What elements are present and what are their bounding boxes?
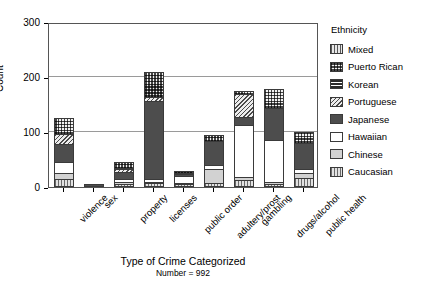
bar-segment-hawaiian (234, 125, 254, 176)
bar-public-order[interactable] (174, 171, 194, 188)
legend-swatch-icon (330, 44, 343, 54)
plot-area (48, 23, 318, 188)
bar-segment-puerto-rican (294, 132, 314, 143)
bar-segment-japanese (54, 144, 74, 162)
bar-segment-japanese (234, 117, 254, 125)
bar-public-health[interactable] (294, 132, 314, 187)
legend-swatch-icon (330, 97, 343, 107)
chart-canvas: Count 0100200300 violencesexpropertylice… (0, 0, 433, 292)
bar-segment-chinese (264, 182, 284, 184)
y-axis-title: Count (0, 65, 5, 92)
bar-segment-japanese (144, 101, 164, 179)
legend-item-label: Chinese (348, 149, 383, 160)
legend-item-korean[interactable]: Korean (330, 77, 433, 91)
bar-segment-portuguese (54, 134, 74, 144)
y-axis-tick-mark (44, 188, 48, 189)
x-axis-tick-mark (213, 188, 214, 192)
bar-segment-chinese (204, 169, 224, 182)
bar-segment-puerto-rican (204, 135, 224, 142)
bar-segment-portuguese (114, 169, 134, 171)
y-axis-tick-label: 200 (14, 73, 40, 83)
legend-swatch-icon (330, 132, 343, 142)
bar-segment-chinese (114, 182, 134, 184)
bar-segment-chinese (234, 177, 254, 180)
bar-segment-chinese (174, 183, 194, 185)
bar-segment-japanese (264, 108, 284, 140)
x-axis-tick-label: violence (77, 192, 109, 224)
bar-segment-chinese (144, 182, 164, 183)
y-axis-tick-label: 100 (14, 128, 40, 138)
legend-items: MixedPuerto RicanKoreanPortugueseJapanes… (330, 42, 433, 179)
x-axis-tick-mark (183, 188, 184, 192)
bar-property[interactable] (114, 162, 134, 187)
legend-item-label: Mixed (348, 44, 373, 55)
bar-segment-japanese (114, 172, 134, 180)
bar-segment-portuguese (144, 97, 164, 100)
bar-segment-hawaiian (144, 179, 164, 182)
bar-segment-caucasian (264, 184, 284, 187)
bar-segment-japanese (174, 174, 194, 176)
legend-item-caucasian[interactable]: Caucasian (330, 165, 433, 179)
bar-segment-puerto-rican (174, 171, 194, 173)
legend-item-portuguese[interactable]: Portuguese (330, 95, 433, 109)
x-axis-tick-label: licenses (167, 192, 199, 224)
legend-item-label: Puerto Rican (348, 61, 403, 72)
legend-item-label: Hawaiian (348, 131, 387, 142)
bar-segment-puerto-rican (234, 91, 254, 94)
x-axis-title: Type of Crime Categorized (0, 255, 366, 267)
x-axis-tick-mark (63, 188, 64, 192)
x-axis-tick-mark (93, 188, 94, 192)
legend-item-mixed[interactable]: Mixed (330, 42, 433, 56)
bar-violence[interactable] (54, 118, 74, 187)
legend-item-label: Portuguese (348, 96, 397, 107)
bar-sex[interactable] (84, 184, 104, 187)
bar-gambling[interactable] (234, 91, 254, 187)
bar-segment-caucasian (204, 183, 224, 187)
legend-swatch-icon (330, 149, 343, 159)
bar-segment-puerto-rican (264, 89, 284, 108)
x-axis-subtitle: Number = 992 (0, 268, 366, 278)
bar-segment-japanese (204, 141, 224, 165)
x-axis-tick-mark (273, 188, 274, 192)
legend: Ethnicity MixedPuerto RicanKoreanPortugu… (330, 24, 433, 182)
bar-segment-puerto-rican (114, 162, 134, 168)
legend-item-chinese[interactable]: Chinese (330, 147, 433, 161)
x-axis-tick-mark (303, 188, 304, 192)
bar-adultery-prost[interactable] (204, 135, 224, 187)
bar-segment-hawaiian (174, 176, 194, 183)
gridline (49, 76, 317, 77)
bar-segment-hawaiian (204, 165, 224, 169)
x-axis-tick-mark (243, 188, 244, 192)
bar-segment-portuguese (174, 173, 194, 175)
legend-swatch-icon (330, 167, 343, 177)
bar-segment-chinese (54, 173, 74, 179)
bar-segment-puerto-rican (54, 118, 74, 133)
bar-segment-caucasian (54, 179, 74, 187)
x-axis-tick-mark (153, 188, 154, 192)
bar-segment-caucasian (294, 178, 314, 187)
bar-segment-japanese (84, 184, 104, 186)
bar-licenses[interactable] (144, 72, 164, 188)
legend-item-japanese[interactable]: Japanese (330, 112, 433, 126)
y-axis-tick-label: 0 (14, 183, 40, 193)
legend-swatch-icon (330, 62, 343, 72)
legend-item-puerto-rican[interactable]: Puerto Rican (330, 60, 433, 74)
legend-item-label: Korean (348, 79, 379, 90)
bar-segment-hawaiian (294, 169, 314, 173)
bar-segment-portuguese (234, 94, 254, 117)
legend-title: Ethnicity (330, 24, 433, 35)
x-axis-tick-label: property (137, 192, 169, 224)
legend-item-label: Caucasian (348, 166, 393, 177)
x-axis-tick-mark (123, 188, 124, 192)
bar-segment-caucasian (114, 184, 134, 187)
bar-segment-puerto-rican (144, 72, 164, 98)
legend-item-hawaiian[interactable]: Hawaiian (330, 130, 433, 144)
bar-segment-caucasian (144, 183, 164, 187)
bar-drugs-alcohol[interactable] (264, 89, 284, 187)
legend-swatch-icon (330, 114, 343, 124)
legend-item-label: Japanese (348, 114, 389, 125)
legend-swatch-icon (330, 79, 343, 89)
bar-segment-japanese (294, 143, 314, 169)
bar-segment-caucasian (234, 180, 254, 187)
bar-segment-hawaiian (114, 179, 134, 182)
